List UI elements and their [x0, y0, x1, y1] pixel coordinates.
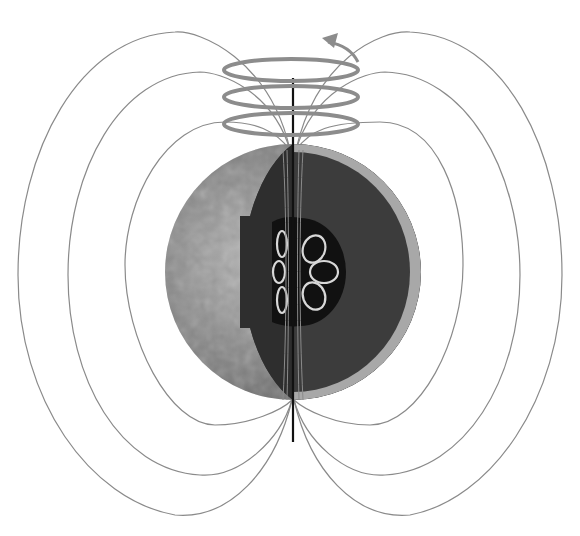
rotation-band: [224, 59, 358, 81]
rotation-arrow-icon: [322, 33, 358, 62]
rotation-band: [224, 113, 358, 135]
rotation-band: [224, 86, 358, 108]
dynamo-diagram: Planetary magnetic dynamo: [0, 0, 580, 536]
